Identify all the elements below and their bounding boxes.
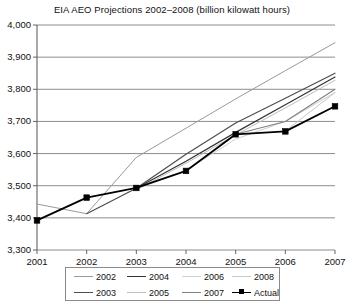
- legend-swatch-2006-icon: [182, 272, 201, 282]
- y-axis-tick-label: 3,700: [0, 115, 31, 126]
- x-axis-tick-label: 2003: [116, 256, 156, 267]
- series-marker-actual: [183, 168, 189, 174]
- legend-swatch-2008-icon: [232, 272, 251, 282]
- x-axis-tick-label: 2007: [315, 256, 350, 267]
- y-axis-tick-label: 3,800: [0, 83, 31, 94]
- y-axis-tick-label: 3,500: [0, 180, 31, 191]
- series-marker-actual: [233, 131, 239, 137]
- x-axis-tick-label: 2006: [265, 256, 305, 267]
- legend-swatch-2002-icon: [74, 272, 93, 282]
- series-marker-actual: [34, 218, 40, 224]
- y-axis-tick-label: 3,600: [0, 148, 31, 159]
- legend-swatch-2007-icon: [182, 288, 201, 298]
- y-axis-tick-label: 4,000: [0, 19, 31, 30]
- legend-item-2005[interactable]: 2005: [127, 285, 169, 300]
- x-axis-tick-label: 2005: [216, 256, 256, 267]
- legend-label: 2008: [254, 272, 274, 282]
- legend-swatch-actual-icon: [232, 288, 251, 298]
- y-axis-tick-label: 3,400: [0, 212, 31, 223]
- legend-row: 2002200420062008: [66, 269, 281, 284]
- legend-swatch-2003-icon: [74, 288, 93, 298]
- x-axis-tick-label: 2001: [17, 256, 57, 267]
- series-marker-actual: [84, 195, 90, 201]
- legend-label: 2006: [204, 272, 224, 282]
- legend-item-actual[interactable]: Actual: [232, 285, 279, 300]
- legend-item-2003[interactable]: 2003: [74, 285, 116, 300]
- series-line-2003: [87, 73, 335, 213]
- legend-label: 2003: [96, 288, 116, 298]
- chart-legend: 2002200420062008200320052007Actual: [65, 267, 280, 301]
- legend-label: 2007: [204, 288, 224, 298]
- legend-label: 2005: [149, 288, 169, 298]
- legend-label: 2004: [149, 272, 169, 282]
- legend-row: 200320052007Actual: [66, 285, 281, 300]
- gridlines: [37, 25, 335, 250]
- legend-item-2006[interactable]: 2006: [182, 269, 224, 284]
- data-series-group: [37, 43, 335, 221]
- series-marker-actual: [283, 129, 289, 135]
- x-axis-tick-label: 2004: [166, 256, 206, 267]
- y-axis-tick-label: 3,900: [0, 51, 31, 62]
- legend-swatch-2004-icon: [127, 272, 146, 282]
- legend-swatch-2005-icon: [127, 288, 146, 298]
- x-axis-tick-label: 2002: [67, 256, 107, 267]
- legend-label: 2002: [96, 272, 116, 282]
- legend-label: Actual: [254, 288, 279, 298]
- legend-item-2002[interactable]: 2002: [74, 269, 116, 284]
- series-marker-actual: [332, 104, 338, 110]
- tick-marks: [33, 25, 335, 254]
- y-axis-tick-label: 3,300: [0, 244, 31, 255]
- legend-item-2004[interactable]: 2004: [127, 269, 169, 284]
- series-marker-actual: [134, 185, 140, 191]
- series-line-2007: [236, 89, 335, 134]
- series-line-2008: [285, 93, 335, 132]
- legend-item-2007[interactable]: 2007: [182, 285, 224, 300]
- legend-item-2008[interactable]: 2008: [232, 269, 274, 284]
